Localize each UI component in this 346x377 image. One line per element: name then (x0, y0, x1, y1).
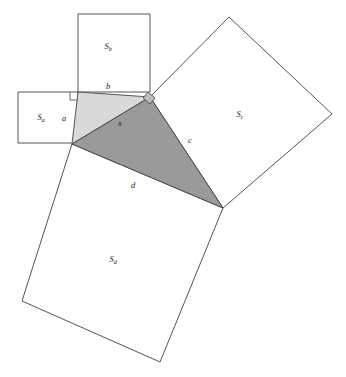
side-d-label: d (131, 180, 136, 190)
side-b-label: b (106, 81, 110, 91)
square-a-shape (18, 92, 78, 143)
geometry-diagram: Sa Sb Sc Sd a b x c d (0, 0, 346, 377)
square-b-label: Sb (104, 41, 111, 52)
square-c-label: Sc (237, 109, 244, 120)
side-c-label: c (188, 135, 192, 145)
square-d-label: Sd (109, 254, 117, 265)
square-a-label: Sa (37, 112, 44, 123)
square-b-shape (78, 14, 150, 92)
side-a-label: a (62, 113, 66, 123)
geometry-figure-root: Sa Sb Sc Sd a b x c d (0, 0, 346, 377)
side-x-label: x (117, 118, 122, 128)
